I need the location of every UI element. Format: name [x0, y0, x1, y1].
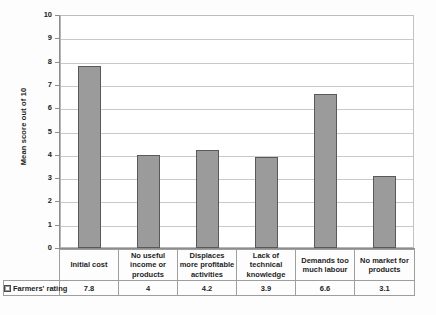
y-axis-tick-label: 10 — [30, 11, 52, 19]
bar — [196, 150, 219, 248]
category-label-cell: Lack oftechnicalknowledge — [237, 250, 296, 281]
y-axis-title: Mean score out of 10 — [19, 42, 28, 212]
series-color-swatch-icon — [4, 285, 11, 292]
table-corner-blank — [4, 250, 60, 281]
y-axis-tick-label: 8 — [30, 58, 52, 66]
category-label-cell: No market forproducts — [355, 250, 415, 281]
value-cell: 6.6 — [296, 281, 355, 296]
y-axis-tick-label: 3 — [30, 174, 52, 182]
legend-entry: Farmers' rating — [4, 281, 60, 296]
category-label-cell: No usefulincome orproducts — [119, 250, 178, 281]
bar-chart-figure: Mean score out of 10 012345678910 Initia… — [0, 0, 436, 315]
value-cell: 3.9 — [237, 281, 296, 296]
legend-label: Farmers' rating — [13, 284, 67, 293]
bar — [137, 155, 160, 248]
bar — [314, 94, 337, 248]
bar — [78, 66, 101, 248]
bar — [373, 176, 396, 248]
bars-group — [60, 15, 414, 248]
category-label-cell: Displacesmore profitableactivities — [178, 250, 237, 281]
y-axis-tick-label: 5 — [30, 128, 52, 136]
y-axis-tick-label: 2 — [30, 197, 52, 205]
table-row-values: Farmers' rating 7.844.23.96.63.1 — [4, 281, 415, 296]
y-axis-tick-label: 7 — [30, 81, 52, 89]
value-cell: 4.2 — [178, 281, 237, 296]
table-row-categories: Initial costNo usefulincome orproductsDi… — [4, 250, 415, 281]
y-axis-tick-label: 4 — [30, 151, 52, 159]
y-axis-tick-label: 1 — [30, 221, 52, 229]
data-table: Initial costNo usefulincome orproductsDi… — [3, 249, 415, 296]
bar — [255, 157, 278, 248]
y-axis-tick-label: 6 — [30, 104, 52, 112]
value-cell: 3.1 — [355, 281, 415, 296]
category-label-cell: Initial cost — [60, 250, 119, 281]
value-cell: 4 — [119, 281, 178, 296]
value-cell: 7.8 — [60, 281, 119, 296]
y-axis-tick-label: 9 — [30, 34, 52, 42]
category-label-cell: Demands toomuch labour — [296, 250, 355, 281]
